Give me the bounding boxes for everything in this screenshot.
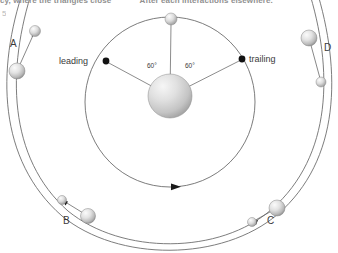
trailing-label: trailing [249,54,276,64]
label-a: A [10,38,17,49]
leading-point-dot [103,58,110,65]
outer-body-c-big [269,200,285,216]
header-fragment-left: cy, where the triangles close [0,0,111,5]
outer-body-d-big [301,30,317,46]
figure-canvas: cy, where the triangles close After each… [0,0,338,253]
outer-body-a-small [30,26,41,37]
outer-body-c-small [248,218,257,227]
trailing-point-dot [239,56,246,63]
label-d: D [324,42,331,53]
label-b: B [63,215,70,226]
lagrange-point-diagram: 60° 60° leading trailing A B [0,0,338,253]
outer-body-group-a: A [9,26,41,80]
leading-label: leading [59,56,88,66]
outer-body-d-small [316,77,326,87]
central-sphere [148,74,192,118]
outer-body-group-b: B [58,196,96,227]
outer-body-group-d: D [301,30,331,87]
corner-number: 5 [2,9,6,18]
orbit-direction-arrow [171,184,181,191]
cut-off-header-text: cy, where the triangles close After each… [0,0,338,9]
outer-body-b-big [81,209,96,224]
angle-label-leading: 60° [147,62,157,69]
label-c: C [267,215,274,226]
outer-body-b-small [58,196,67,205]
angle-label-trailing: 60° [185,62,195,69]
header-fragment-right: After each interactions elsewhere. [140,0,273,5]
outer-body-a-big [9,63,25,79]
orbit-body-top [165,13,177,25]
